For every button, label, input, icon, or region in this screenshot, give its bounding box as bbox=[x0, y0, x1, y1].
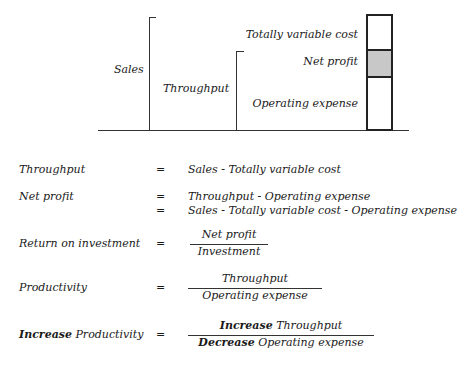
sales-bracket-bottom bbox=[149, 130, 156, 131]
equals-sign: = bbox=[156, 282, 165, 294]
roi-numerator: Net profit bbox=[190, 229, 268, 241]
formula-rhs-net-profit-expanded: Sales - Totally variable cost - Operatin… bbox=[188, 205, 457, 217]
decrease-emphasis: Decrease bbox=[198, 336, 254, 349]
equals-sign: = bbox=[156, 329, 165, 341]
sales-bracket-top bbox=[149, 17, 156, 18]
formula-label-net-profit: Net profit bbox=[19, 191, 74, 203]
formula-label-productivity: Productivity bbox=[19, 282, 87, 294]
throughput-bracket-bottom bbox=[236, 130, 244, 131]
increase-emphasis: Increase bbox=[19, 328, 72, 341]
formula-label-increase-productivity: Increase Productivity bbox=[19, 329, 143, 341]
formula-label-throughput: Throughput bbox=[19, 164, 85, 176]
opex-label: Operating expense bbox=[253, 98, 358, 110]
formula-rhs-net-profit: Throughput - Operating expense bbox=[188, 191, 370, 203]
throughput-bracket-top bbox=[236, 51, 244, 52]
formula-label-roi: Return on investment bbox=[19, 238, 140, 250]
roi-denominator: Investment bbox=[190, 246, 268, 258]
equals-sign: = bbox=[156, 164, 165, 176]
opex-word: Operating expense bbox=[258, 336, 363, 349]
throughput-word: Throughput bbox=[276, 319, 342, 332]
formula-rhs-throughput: Sales - Totally variable cost bbox=[188, 164, 341, 176]
equals-sign: = bbox=[156, 205, 165, 217]
bar-net-profit-segment bbox=[366, 49, 393, 78]
productivity-word: Productivity bbox=[75, 328, 143, 341]
productivity-denominator: Operating expense bbox=[188, 290, 322, 302]
throughput-bracket-vertical bbox=[236, 51, 237, 131]
sales-bracket-vertical bbox=[149, 17, 150, 131]
sales-label: Sales bbox=[114, 64, 144, 76]
increase-denominator: Decrease Operating expense bbox=[188, 337, 374, 349]
equals-sign: = bbox=[156, 238, 165, 250]
increase-emphasis: Increase bbox=[220, 319, 273, 332]
productivity-numerator: Throughput bbox=[188, 273, 322, 285]
bar-tvc-segment bbox=[366, 14, 393, 51]
throughput-label: Throughput bbox=[163, 83, 229, 95]
tvc-label: Totally variable cost bbox=[246, 29, 358, 41]
equals-sign: = bbox=[156, 191, 165, 203]
bar-opex-segment bbox=[366, 76, 393, 131]
net-profit-label: Net profit bbox=[303, 56, 358, 68]
increase-numerator: Increase Throughput bbox=[188, 320, 374, 332]
baseline bbox=[98, 130, 409, 131]
